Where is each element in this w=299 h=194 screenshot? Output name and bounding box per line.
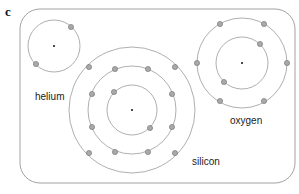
electron [147, 125, 152, 130]
atom-diagram: heliumsiliconoxygen [0, 0, 299, 194]
electron [194, 60, 199, 65]
electron [111, 89, 116, 94]
nucleus [131, 109, 133, 111]
nucleus [53, 45, 55, 47]
electron [261, 21, 266, 26]
electron [261, 98, 266, 103]
electron [169, 91, 174, 96]
electron [112, 149, 117, 154]
electron [172, 150, 177, 155]
electron [172, 64, 177, 69]
electron [145, 66, 150, 71]
electron [145, 149, 150, 154]
electron [112, 66, 117, 71]
electron [257, 41, 262, 46]
electron [89, 124, 94, 129]
electron [221, 79, 226, 84]
electron [86, 150, 91, 155]
electron [33, 61, 38, 66]
nucleus [241, 62, 243, 64]
atoms-layer: heliumsiliconoxygen [28, 18, 290, 173]
electron [86, 64, 91, 69]
atom-label-silicon: silicon [192, 156, 220, 167]
electron [169, 124, 174, 129]
electron [284, 60, 289, 65]
electron [217, 98, 222, 103]
atom-oxygen: oxygen [194, 18, 289, 126]
electron [68, 24, 73, 29]
electron [89, 91, 94, 96]
atom-label-oxygen: oxygen [230, 115, 262, 126]
electron [217, 21, 222, 26]
atom-label-helium: helium [35, 91, 64, 102]
